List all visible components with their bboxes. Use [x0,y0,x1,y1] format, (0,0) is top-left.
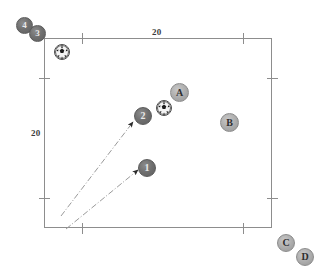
tick-bottom-0 [82,223,83,234]
tick-top-0 [82,33,83,44]
ball-upper-left[interactable] [54,44,70,60]
top-scale-label: 20 [152,27,161,37]
player-C[interactable]: C [277,234,295,252]
player-B[interactable]: B [220,113,239,132]
diagram-canvas: 2020 4321ABCD [0,0,324,277]
left-scale-label: 20 [31,128,40,138]
player-D[interactable]: D [296,248,314,266]
ball-center[interactable] [156,100,172,116]
tick-right-1 [267,198,278,199]
player-3[interactable]: 3 [29,25,46,42]
player-1[interactable]: 1 [138,159,156,177]
tick-bottom-1 [243,223,244,234]
soccer-field-boundary [44,38,272,228]
tick-top-1 [243,33,244,44]
tick-left-1 [39,198,50,199]
tick-right-0 [267,78,278,79]
tick-left-0 [39,78,50,79]
player-2[interactable]: 2 [134,107,152,125]
player-A[interactable]: A [170,83,189,102]
